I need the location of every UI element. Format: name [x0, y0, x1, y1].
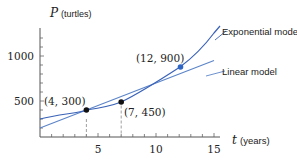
label-12-900: (12, 900) — [136, 52, 184, 64]
x-tick-5: 5 — [95, 143, 102, 155]
y-tick-500: 500 — [14, 95, 34, 107]
y-tick-1000: 1000 — [7, 50, 34, 62]
point-7-450 — [118, 99, 124, 105]
label-4-300: (4, 300) — [44, 95, 86, 107]
x-axis-var: t — [232, 133, 237, 147]
chart: P (turtles) 1000 500 5 10 15 t (years) (… — [0, 0, 297, 166]
point-12-900 — [178, 64, 184, 70]
y-ticks — [40, 38, 44, 128]
x-ticks — [52, 133, 214, 137]
legend-linear: Linear model — [222, 66, 277, 77]
x-tick-10: 10 — [149, 143, 162, 155]
y-axis-var: P — [49, 6, 59, 20]
label-7-450: (7, 450) — [124, 106, 166, 118]
legend-exponential: Exponential model — [222, 26, 297, 37]
point-4-300 — [84, 107, 90, 113]
y-axis-unit: (turtles) — [61, 9, 92, 19]
x-tick-15: 15 — [207, 143, 220, 155]
x-axis-unit: (years) — [240, 135, 270, 146]
